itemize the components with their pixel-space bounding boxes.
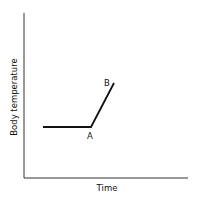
x-axis-label: Time bbox=[96, 183, 118, 193]
body-temperature-chart: A B Time Body temperature bbox=[0, 0, 197, 198]
point-a-label: A bbox=[87, 131, 93, 141]
temperature-line bbox=[43, 83, 114, 127]
chart-canvas: A B Time Body temperature bbox=[0, 0, 197, 198]
y-axis-label: Body temperature bbox=[9, 58, 19, 136]
point-b-label: B bbox=[104, 78, 110, 88]
